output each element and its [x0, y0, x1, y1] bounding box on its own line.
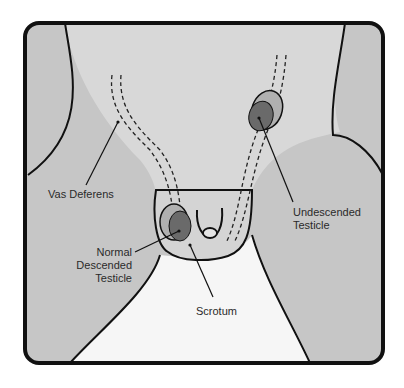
label-undescended-testicle: Undescended Testicle [293, 206, 361, 232]
label-scrotum: Scrotum [196, 305, 237, 318]
label-normal-line2: Descended [60, 259, 132, 272]
label-normal-descended-testicle: Normal Descended Testicle [60, 246, 132, 285]
label-normal-line3: Testicle [60, 272, 132, 285]
label-undescended-line1: Undescended [293, 206, 361, 219]
label-normal-line1: Normal [60, 246, 132, 259]
label-vas-deferens: Vas Deferens [48, 188, 114, 201]
label-undescended-line2: Testicle [293, 219, 361, 232]
